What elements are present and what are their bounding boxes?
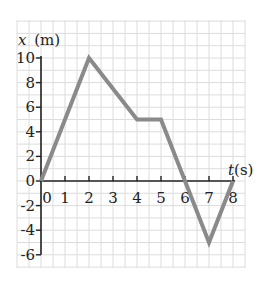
y-tick-label: 4	[25, 123, 35, 141]
x-tick-label: 4	[132, 189, 142, 207]
x-tick-label: 3	[108, 189, 118, 207]
x-tick-label: 2	[84, 189, 94, 207]
x-tick-label: 0	[42, 189, 52, 207]
y-tick-label: 0	[25, 172, 35, 190]
axes	[41, 56, 235, 255]
y-tick-label: -4	[20, 221, 35, 239]
y-tick-label: 10	[16, 49, 35, 67]
x-tick-label: 1	[60, 189, 70, 207]
y-tick-label: -6	[20, 246, 35, 264]
y-tick-label: 8	[25, 74, 35, 92]
y-tick-label: -2	[20, 197, 35, 215]
x-tick-label: 7	[204, 189, 214, 207]
position-time-chart: 1086420-2-4-6012345678 x (m) t(s)	[0, 0, 269, 282]
x-axis-label: t(s)	[228, 161, 253, 179]
y-axis-label: x (m)	[18, 31, 60, 49]
y-tick-label: 2	[25, 147, 35, 165]
y-tick-label: 6	[25, 98, 35, 116]
grid	[17, 20, 245, 268]
x-tick-label: 5	[156, 189, 166, 207]
